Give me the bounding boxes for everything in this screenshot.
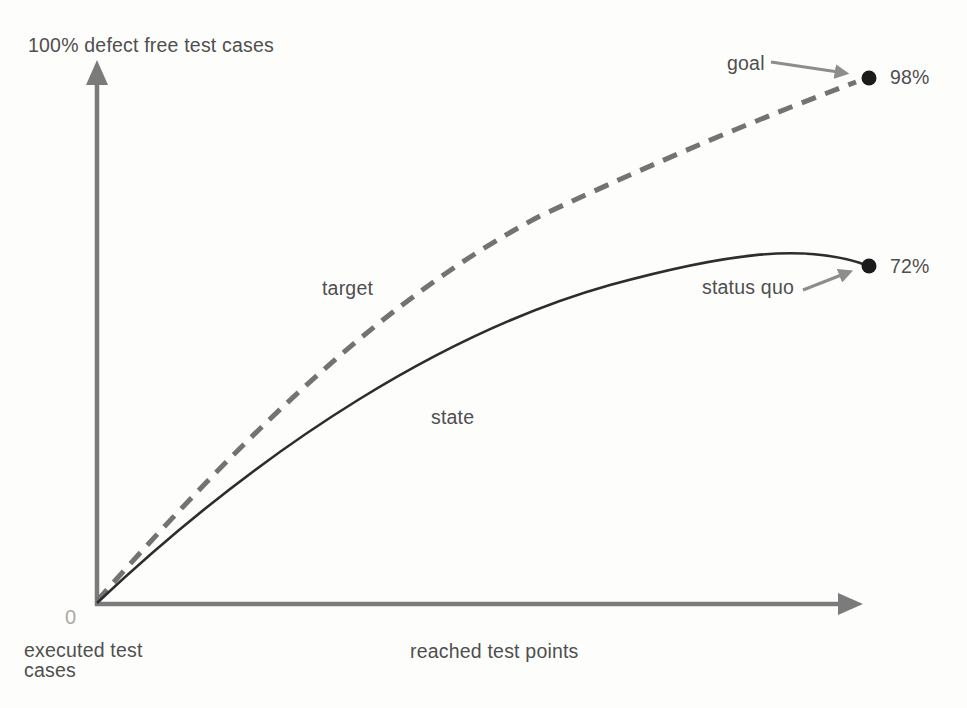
state-curve-label: state: [431, 406, 474, 428]
state-curve: [97, 253, 866, 603]
status-quo-value-label: 72%: [890, 255, 930, 277]
status-quo-annotation-label: status quo: [702, 276, 794, 298]
x-axis-arrowhead-icon: [838, 593, 863, 615]
status-quo-endpoint-dot: [862, 259, 877, 274]
goal-endpoint-dot: [862, 71, 877, 86]
chart-svg: 100% defect free test cases goal 98% tar…: [0, 0, 967, 708]
executed-test-cases-label-line2: cases: [24, 659, 76, 681]
target-curve-label: target: [322, 277, 373, 299]
y-axis-label: 100% defect free test cases: [28, 34, 274, 56]
x-axis-label: reached test points: [410, 640, 579, 662]
goal-annotation-label: goal: [727, 52, 765, 74]
goal-value-label: 98%: [890, 66, 930, 88]
scanned-page: 100% defect free test cases goal 98% tar…: [0, 0, 967, 708]
target-curve: [97, 82, 856, 601]
goal-arrow-icon: [771, 62, 845, 73]
origin-tick-label: 0: [65, 606, 76, 628]
status-quo-arrow-icon: [803, 272, 849, 290]
executed-test-cases-label-line1: executed test: [24, 639, 143, 661]
y-axis-arrowhead-icon: [86, 60, 108, 85]
